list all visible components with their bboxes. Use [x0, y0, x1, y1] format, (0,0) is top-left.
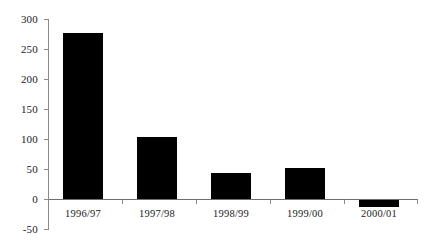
- bar-1999-00: [285, 168, 325, 199]
- x-axis-label-1998-99: 1998/99: [201, 208, 261, 219]
- y-axis-label-200: 200: [8, 74, 38, 85]
- bar-1998-99: [211, 173, 251, 199]
- y-axis-label-250: 250: [8, 44, 38, 55]
- y-axis-label-50: 50: [8, 164, 38, 175]
- bar-chart: 300 250 200 150 100 50 0 -50 1996/97 199…: [0, 0, 430, 248]
- x-axis-label-1999-00: 1999/00: [275, 208, 335, 219]
- y-axis-label-300: 300: [8, 14, 38, 25]
- x-axis-label-2000-01: 2000/01: [349, 208, 409, 219]
- bar-2000-01: [359, 200, 399, 207]
- y-axis-label-minus50: -50: [8, 224, 38, 235]
- bar-1997-98: [137, 137, 177, 199]
- y-axis-label-100: 100: [8, 134, 38, 145]
- x-axis-label-1996-97: 1996/97: [53, 208, 113, 219]
- x-axis-label-1997-98: 1997/98: [127, 208, 187, 219]
- y-axis-label-0: 0: [8, 194, 38, 205]
- y-axis-label-150: 150: [8, 104, 38, 115]
- bar-1996-97: [63, 33, 103, 199]
